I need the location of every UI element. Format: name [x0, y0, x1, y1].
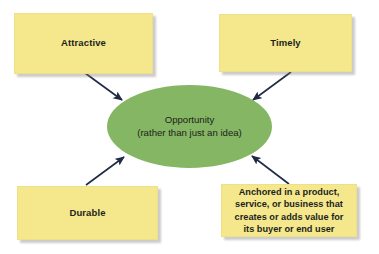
arrow-timely-to-center [253, 72, 291, 100]
arrow-attractive-to-center [85, 73, 122, 100]
note-anchored-paragraph: Anchored in a product, service, or busin… [232, 186, 347, 235]
note-timely-label: Timely [270, 37, 301, 49]
center-node-subtitle: (rather than just an idea) [137, 127, 242, 140]
center-node-opportunity: Opportunity (rather than just an idea) [107, 85, 272, 168]
note-anchored-line-1: Anchored in a product, [235, 186, 344, 198]
arrow-anchored-to-center [252, 156, 289, 184]
arrow-durable-to-center [86, 157, 124, 185]
note-anchored-line-3: creates or adds value for [235, 211, 344, 223]
center-node-title: Opportunity [165, 114, 215, 127]
diagram-canvas: Attractive Timely Durable Anchored in a … [0, 0, 379, 254]
note-durable: Durable [17, 186, 158, 240]
note-anchored: Anchored in a product, service, or busin… [221, 184, 357, 237]
note-attractive-label: Attractive [61, 37, 106, 49]
note-anchored-line-4: its buyer or end user [235, 223, 344, 235]
note-attractive: Attractive [14, 13, 153, 74]
note-timely: Timely [219, 14, 352, 72]
note-durable-label: Durable [69, 207, 105, 219]
note-anchored-line-2: service, or business that [235, 198, 344, 210]
